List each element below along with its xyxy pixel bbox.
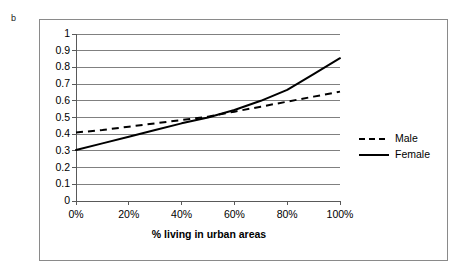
y-tick-label: 0.3: [44, 145, 70, 156]
legend-label-male: Male: [395, 131, 418, 146]
series-line-female: [76, 58, 340, 150]
x-tick-label: 60%: [212, 208, 256, 220]
y-tick-label: 0.6: [44, 95, 70, 106]
x-tick-label: 100%: [318, 208, 362, 220]
y-tick-label: 0.4: [44, 128, 70, 139]
x-tick-label: 20%: [107, 208, 151, 220]
y-tick-label: 0.2: [44, 162, 70, 173]
series-line-male: [76, 92, 340, 133]
y-tick-label: 1: [44, 28, 70, 39]
x-axis-title: % living in urban areas: [76, 228, 342, 240]
legend-key-solid-icon: [359, 154, 389, 156]
y-tick-label: 0.1: [44, 178, 70, 189]
x-tick-label: 80%: [265, 208, 309, 220]
legend-item-male: Male: [359, 131, 445, 147]
y-tick-label: 0.5: [44, 112, 70, 123]
x-tick-label: 0%: [54, 208, 98, 220]
y-tick-label: 0.8: [44, 61, 70, 72]
chart-figure: b: [0, 0, 460, 276]
y-tick-marks: [72, 34, 76, 201]
x-tick-marks: [76, 201, 340, 205]
y-tick-label: 0: [44, 195, 70, 206]
gridlines: [76, 34, 340, 184]
legend-key-dashed-icon: [359, 138, 389, 140]
x-tick-label: 40%: [160, 208, 204, 220]
y-tick-label: 0.9: [44, 45, 70, 56]
legend-label-female: Female: [395, 147, 430, 162]
y-tick-label: 0.7: [44, 78, 70, 89]
legend-item-female: Female: [359, 147, 445, 163]
legend: Male Female: [359, 131, 445, 163]
